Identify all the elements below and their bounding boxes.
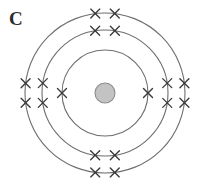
nucleus bbox=[95, 83, 115, 103]
atom-diagram bbox=[0, 0, 206, 188]
atomic-structure-figure: C bbox=[0, 0, 206, 188]
